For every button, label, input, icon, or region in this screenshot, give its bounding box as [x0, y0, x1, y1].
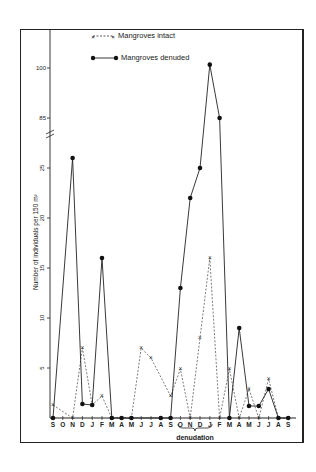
legend-denuded-label: Mangroves denuded	[121, 53, 189, 62]
denudation-brace	[178, 424, 212, 431]
x-tick-label: S	[51, 421, 56, 428]
circle-marker-icon	[247, 404, 252, 409]
series-line	[53, 65, 288, 418]
x-tick-label: J	[257, 421, 261, 428]
x-tick-label: A	[119, 421, 124, 428]
denudation-annotation: denudation	[176, 434, 214, 441]
circle-marker-icon	[208, 62, 213, 67]
circle-marker-icon	[257, 404, 262, 409]
circle-marker-icon	[119, 416, 124, 421]
circle-marker-icon	[217, 116, 222, 121]
x-tick-label: O	[60, 421, 65, 428]
x-tick-label: A	[158, 421, 163, 428]
x-marker-icon: ×	[139, 344, 143, 351]
circle-marker-icon	[110, 416, 115, 421]
circle-marker-icon	[100, 256, 105, 261]
x-tick-label: F	[218, 421, 222, 428]
x-marker-icon: ×	[218, 414, 222, 421]
x-tick-label: M	[109, 421, 114, 428]
x-tick-label: D	[198, 421, 203, 428]
circle-marker-icon	[188, 196, 193, 201]
y-tick-label: 10	[39, 314, 45, 321]
circle-marker-icon	[159, 416, 164, 421]
x-tick-label: J	[149, 421, 153, 428]
x-marker-icon: ×	[257, 414, 261, 421]
x-tick-label: J	[90, 421, 94, 428]
x-tick-label: A	[276, 421, 281, 428]
circle-marker-icon	[266, 387, 271, 392]
x-marker-icon: ×	[100, 392, 104, 399]
legend-intact-label: Mangroves intact	[118, 31, 176, 40]
x-marker-icon: ×	[71, 414, 75, 421]
x-tick-label: M	[129, 421, 134, 428]
y-tick-label: 15	[39, 264, 45, 271]
x-marker-icon: ×	[188, 414, 192, 421]
line-chart: 51015202585100 SONDJFMAMJJASONDJFMAMJJAS…	[0, 0, 316, 472]
x-marker-icon: ×	[267, 375, 271, 382]
x-tick-label: D	[80, 421, 85, 428]
x-tick-label: J	[267, 421, 271, 428]
circle-marker-icon	[129, 416, 134, 421]
legend-denuded-marker-icon	[91, 56, 95, 60]
x-marker-icon: ×	[179, 365, 183, 372]
circle-marker-icon	[276, 416, 281, 421]
y-tick-label: 5	[39, 366, 45, 370]
legend: × × Mangroves intact Mangroves denuded	[91, 31, 190, 62]
x-tick-label: F	[100, 421, 104, 428]
circle-marker-icon	[80, 402, 85, 407]
circle-marker-icon	[90, 403, 95, 408]
circle-marker-icon	[168, 416, 173, 421]
y-axis-label: Number of individuals per 150 m²	[32, 193, 40, 290]
x-marker-icon: ×	[237, 414, 241, 421]
x-marker-icon: ×	[247, 385, 251, 392]
x-marker-icon: ×	[198, 334, 202, 341]
legend-intact-marker-icon: ×	[111, 34, 115, 40]
x-tick-label: S	[168, 421, 173, 428]
x-marker-icon: ×	[149, 354, 153, 361]
circle-marker-icon	[286, 416, 291, 421]
circle-marker-icon	[237, 326, 242, 331]
circle-marker-icon	[70, 156, 75, 161]
x-tick-label: A	[237, 421, 242, 428]
x-tick-label: M	[227, 421, 232, 428]
x-marker-icon: ×	[81, 344, 85, 351]
series-mangroves-intact: ×××××××××××××××××××××××	[51, 254, 290, 421]
circle-marker-icon	[227, 416, 232, 421]
y-tick-label: 100	[36, 65, 47, 71]
y-tick-label: 20	[39, 214, 45, 221]
y-tick-label: 25	[39, 164, 45, 171]
legend-intact-marker-icon: ×	[91, 34, 95, 40]
x-tick-label: J	[139, 421, 143, 428]
x-tick-label: S	[286, 421, 291, 428]
x-tick-label: N	[188, 421, 193, 428]
x-marker-icon: ×	[208, 254, 212, 261]
legend-denuded-marker-icon	[114, 56, 118, 60]
x-tick-label: M	[246, 421, 251, 428]
circle-marker-icon	[198, 166, 203, 171]
circle-marker-icon	[51, 416, 56, 421]
y-tick-label: 85	[39, 115, 46, 121]
series-mangroves-denuded	[51, 62, 291, 420]
x-tick-label: N	[70, 421, 75, 428]
circle-marker-icon	[178, 286, 183, 291]
